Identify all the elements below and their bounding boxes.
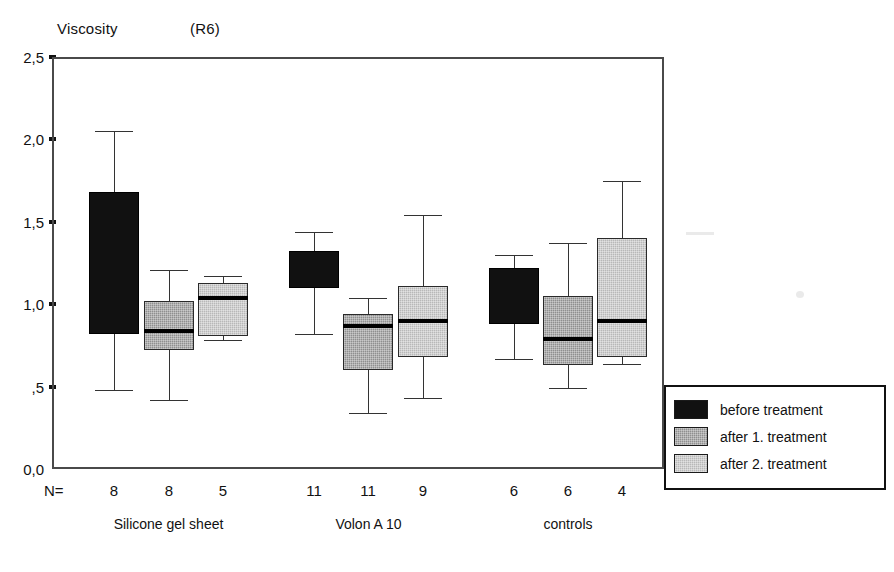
legend-item-1[interactable]: after 1. treatment: [674, 423, 876, 450]
whisker-cap-upper: [150, 270, 188, 271]
whisker-lower: [514, 324, 515, 359]
box-plot-box: [543, 296, 593, 365]
whisker-cap-upper: [549, 243, 587, 244]
whisker-cap-lower: [549, 388, 587, 389]
n-value: 8: [165, 482, 173, 499]
chart-title-suffix: (R6): [190, 20, 220, 37]
n-value: 8: [110, 482, 118, 499]
box-plot-box: [597, 238, 647, 357]
y-tick-label: 1,5: [0, 213, 52, 230]
whisker-lower: [368, 370, 369, 413]
whisker-upper: [514, 255, 515, 268]
median-line: [597, 319, 647, 323]
legend-swatch-icon: [674, 454, 708, 473]
whisker-cap-upper: [204, 276, 242, 277]
chart-title: Viscosity: [57, 20, 118, 37]
legend-item-0[interactable]: before treatment: [674, 396, 876, 423]
whisker-cap-lower: [404, 398, 442, 399]
n-value: 4: [618, 482, 626, 499]
n-value: 6: [564, 482, 572, 499]
whisker-cap-lower: [295, 334, 333, 335]
whisker-cap-upper: [295, 232, 333, 233]
legend-label: after 1. treatment: [720, 429, 827, 445]
median-line: [198, 296, 248, 300]
legend-swatch-icon: [674, 400, 708, 419]
n-value: 6: [510, 482, 518, 499]
whisker-cap-lower: [204, 340, 242, 341]
whisker-upper: [114, 131, 115, 192]
group-label-1: Volon A 10: [335, 516, 401, 532]
whisker-cap-upper: [404, 215, 442, 216]
box-plot-box: [289, 251, 339, 287]
n-value: 5: [219, 482, 227, 499]
group-label-2: controls: [543, 516, 592, 532]
whisker-lower: [314, 288, 315, 334]
box-plot-box: [198, 283, 248, 336]
whisker-cap-lower: [150, 400, 188, 401]
whisker-cap-lower: [349, 413, 387, 414]
whisker-cap-upper: [495, 255, 533, 256]
whisker-upper: [368, 298, 369, 314]
n-row-label: N=: [44, 482, 64, 499]
whisker-cap-upper: [603, 181, 641, 182]
whisker-upper: [622, 181, 623, 239]
whisker-cap-lower: [603, 364, 641, 365]
whisker-lower: [423, 357, 424, 398]
legend-swatch-icon: [674, 427, 708, 446]
y-tick-label: 2,0: [0, 131, 52, 148]
box-plot-box: [89, 192, 139, 334]
whisker-upper: [568, 243, 569, 296]
scan-artifact: [796, 291, 804, 298]
whisker-cap-upper: [95, 131, 133, 132]
scan-artifact: [686, 232, 714, 235]
whisker-lower: [169, 350, 170, 399]
whisker-lower: [622, 357, 623, 364]
whisker-upper: [423, 215, 424, 286]
y-tick-label: ,5: [0, 378, 52, 395]
n-value: 11: [360, 482, 376, 499]
whisker-cap-lower: [95, 390, 133, 391]
legend: before treatmentafter 1. treatmentafter …: [664, 385, 886, 490]
whisker-lower: [114, 334, 115, 390]
y-tick-label: 1,0: [0, 296, 52, 313]
box-plot-box: [343, 314, 393, 370]
n-value: 11: [306, 482, 322, 499]
boxplot-chart: Viscosity (R6) 2,52,01,51,0,50,0 N= 8851…: [0, 0, 894, 572]
whisker-cap-upper: [349, 298, 387, 299]
legend-label: after 2. treatment: [720, 456, 827, 472]
group-label-0: Silicone gel sheet: [114, 516, 224, 532]
y-tick-label: 2,5: [0, 49, 52, 66]
median-line: [144, 329, 194, 333]
box-plot-box: [489, 268, 539, 324]
n-value: 9: [419, 482, 427, 499]
median-line: [543, 337, 593, 341]
plot-area: [52, 57, 664, 469]
box-plot-box: [144, 301, 194, 350]
median-line: [343, 324, 393, 328]
whisker-cap-lower: [495, 359, 533, 360]
y-tick-label: 0,0: [0, 461, 52, 478]
legend-label: before treatment: [720, 402, 823, 418]
whisker-upper: [169, 270, 170, 301]
whisker-upper: [314, 232, 315, 252]
legend-item-2[interactable]: after 2. treatment: [674, 450, 876, 477]
median-line: [398, 319, 448, 323]
whisker-lower: [568, 365, 569, 388]
